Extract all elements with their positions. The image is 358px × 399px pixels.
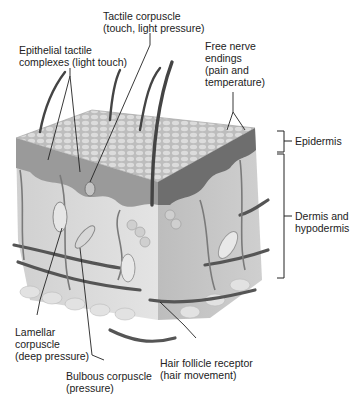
tactile-corpuscle [85, 182, 95, 196]
label-dermis-hypodermis: Dermis and hypodermis [295, 210, 349, 234]
label-bulbous-corpuscle: Bulbous corpuscle (pressure) [66, 370, 152, 394]
label-lamellar-corpuscle: Lamellar corpuscle (deep pressure) [15, 326, 89, 362]
label-tactile-corpuscle: Tactile corpuscle (touch, light pressure… [103, 10, 205, 34]
label-epithelial-tactile-complexes: Epithelial tactile complexes (light touc… [19, 44, 127, 68]
label-free-nerve-endings: Free nerve endings (pain and temperature… [205, 40, 265, 88]
label-hair-follicle-receptor: Hair follicle receptor (hair movement) [160, 357, 253, 381]
label-epidermis: Epidermis [295, 135, 342, 147]
lamellar-corpuscle [53, 202, 67, 232]
